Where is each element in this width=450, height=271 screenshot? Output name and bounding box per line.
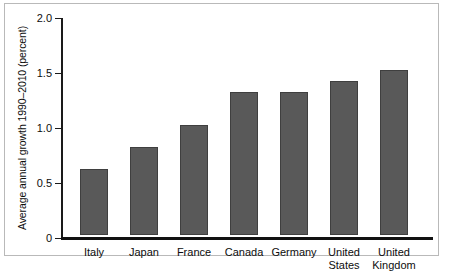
x-axis-label-line: Kingdom — [355, 259, 433, 271]
bar — [280, 92, 308, 235]
y-axis-title: Average annual growth 1990–2010 (percent… — [14, 12, 30, 244]
y-tick-mark — [55, 183, 61, 184]
bar — [330, 81, 358, 235]
bar — [180, 125, 208, 235]
x-axis-line — [61, 237, 433, 240]
bar — [80, 169, 108, 235]
plot-area: 00.51.01.52.0 ItalyJapanFranceCanadaGerm… — [61, 10, 433, 238]
figure-frame: Average annual growth 1990–2010 (percent… — [4, 3, 439, 256]
y-tick-mark — [55, 18, 61, 19]
y-tick-label: 0 — [46, 233, 52, 244]
y-tick-label: 1.0 — [37, 123, 52, 134]
x-axis-label: UnitedKingdom — [355, 246, 433, 271]
y-tick-label: 2.0 — [37, 13, 52, 24]
bar — [380, 70, 408, 235]
y-tick-mark — [55, 128, 61, 129]
y-axis-line — [61, 18, 63, 238]
y-tick-label: 1.5 — [37, 68, 52, 79]
y-tick-mark — [55, 73, 61, 74]
y-tick-mark — [55, 238, 61, 239]
y-tick-label: 0.5 — [37, 178, 52, 189]
bar — [130, 147, 158, 235]
bar — [230, 92, 258, 235]
x-axis-label-line: United — [355, 246, 433, 259]
